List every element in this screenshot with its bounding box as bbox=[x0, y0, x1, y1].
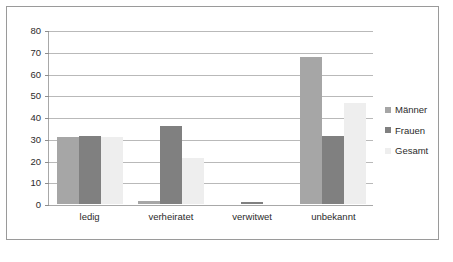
bar-group bbox=[292, 32, 373, 204]
legend-item: Frauen bbox=[385, 126, 428, 136]
gridline bbox=[49, 205, 373, 206]
bar-group bbox=[131, 32, 212, 204]
bar bbox=[160, 126, 182, 204]
y-axis-tick bbox=[45, 183, 49, 184]
y-axis-label: 60 bbox=[30, 70, 41, 80]
y-axis-label: 50 bbox=[30, 92, 41, 102]
y-axis-tick bbox=[45, 75, 49, 76]
y-axis-label: 80 bbox=[30, 26, 41, 36]
bars-layer bbox=[50, 32, 373, 204]
y-axis-tick bbox=[45, 205, 49, 206]
bar bbox=[138, 201, 160, 204]
legend-swatch-icon bbox=[385, 107, 391, 113]
y-axis-label: 10 bbox=[30, 179, 41, 189]
legend-swatch-icon bbox=[385, 127, 391, 133]
chart-frame: 01020304050607080 ledigverheiratetverwit… bbox=[6, 6, 439, 240]
y-axis-label: 70 bbox=[30, 48, 41, 58]
x-axis-label: unbekannt bbox=[293, 212, 374, 222]
plot-area: 01020304050607080 bbox=[48, 32, 373, 206]
x-axis-labels: ledigverheiratetverwitwetunbekannt bbox=[49, 212, 374, 222]
y-axis-tick bbox=[45, 53, 49, 54]
x-axis-label: verheiratet bbox=[130, 212, 211, 222]
y-axis-label: 0 bbox=[36, 200, 41, 210]
chart-legend: MännerFrauenGesamt bbox=[385, 105, 428, 156]
y-axis-tick bbox=[45, 140, 49, 141]
x-axis-label: ledig bbox=[49, 212, 130, 222]
legend-item: Gesamt bbox=[385, 146, 428, 156]
bar bbox=[241, 202, 263, 204]
legend-swatch-icon bbox=[385, 148, 391, 154]
y-axis-tick bbox=[45, 31, 49, 32]
y-axis-tick bbox=[45, 162, 49, 163]
legend-label: Frauen bbox=[395, 126, 425, 136]
y-axis-tick bbox=[45, 96, 49, 97]
bar bbox=[57, 137, 79, 204]
y-axis-label: 20 bbox=[30, 157, 41, 167]
bar bbox=[182, 158, 204, 204]
legend-item: Männer bbox=[385, 105, 428, 115]
x-axis-label: verwitwet bbox=[212, 212, 293, 222]
bar bbox=[300, 57, 322, 204]
bar bbox=[79, 136, 101, 205]
bar-group bbox=[212, 32, 293, 204]
legend-label: Männer bbox=[395, 105, 427, 115]
y-axis-tick bbox=[45, 118, 49, 119]
legend-label: Gesamt bbox=[395, 146, 428, 156]
bar bbox=[101, 137, 123, 204]
y-axis-label: 30 bbox=[30, 135, 41, 145]
bar bbox=[322, 136, 344, 205]
y-axis-label: 40 bbox=[30, 113, 41, 123]
bar bbox=[344, 103, 366, 204]
bar-group bbox=[50, 32, 131, 204]
